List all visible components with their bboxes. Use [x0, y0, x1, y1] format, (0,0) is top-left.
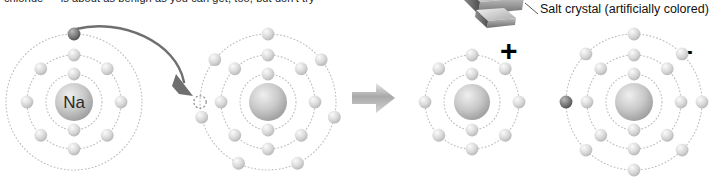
chloride-ion-electron [628, 28, 641, 41]
chlorine-atom-electron [291, 157, 304, 170]
sodium-ion-electron [466, 143, 479, 156]
chlorine-atom-electron [195, 111, 208, 124]
reaction-arrow-icon [352, 82, 396, 114]
chlorine-atom-electron [295, 62, 308, 75]
sodium-ion-electron [432, 62, 445, 75]
chlorine-atom-electron [262, 124, 275, 137]
chloride-ion-electron-highlighted [560, 96, 573, 109]
cropped-caption-strip: chloride — is about as benign as you can… [0, 0, 430, 9]
chlorine-atom-electron [295, 129, 308, 142]
sodium-atom-electron [68, 143, 81, 156]
chlorine-atom-electron [232, 157, 245, 170]
sodium-ion-electron [466, 49, 479, 62]
chloride-ion-diagram [548, 16, 711, 187]
chlorine-atom-electron [262, 28, 275, 41]
sodium-ion-electron [513, 96, 526, 109]
chlorine-atom-electron [228, 129, 241, 142]
sodium-atom-diagram: Na [0, 16, 160, 187]
chlorine-atom-svg [182, 16, 354, 187]
chloride-ion-electron [676, 48, 689, 61]
chlorine-atom-nucleus [249, 83, 287, 121]
sodium-atom-svg: Na [0, 16, 160, 187]
sodium-atom-electron [21, 96, 34, 109]
chloride-ion-electron [628, 68, 641, 81]
chloride-ion-svg [548, 16, 711, 187]
salt-crystal-label: Salt crystal (artificially colored) [540, 2, 709, 16]
chloride-ion-electron [581, 96, 594, 109]
sodium-atom-electron [115, 96, 128, 109]
chloride-ion-electron [628, 143, 641, 156]
chloride-ion-electron [696, 96, 709, 109]
chlorine-atom-electron [262, 49, 275, 62]
sodium-ion-electron [432, 129, 445, 142]
chloride-ion-electron [628, 124, 641, 137]
sodium-ion-electron [419, 96, 432, 109]
sodium-atom-electron [68, 49, 81, 62]
sodium-atom-electron-highlighted [68, 28, 81, 41]
chloride-ion-electron [594, 62, 607, 75]
sodium-ion-electron [499, 62, 512, 75]
sodium-ion-electron [499, 129, 512, 142]
sodium-ion-electron [466, 68, 479, 81]
chloride-ion-electron [661, 62, 674, 75]
chloride-ion-electron [594, 129, 607, 142]
chlorine-atom-electron [215, 96, 228, 109]
sodium-atom-electron [68, 68, 81, 81]
chloride-ion-electron [628, 164, 641, 177]
chlorine-atom-diagram [182, 16, 354, 187]
chlorine-atom-electron [208, 53, 221, 66]
crystal-leader-line [524, 2, 540, 16]
sodium-atom-nucleus-label: Na [63, 93, 85, 112]
chloride-ion-electron [580, 144, 593, 157]
sodium-ion-nucleus [454, 84, 490, 120]
chlorine-atom-electron [315, 53, 328, 66]
chlorine-atom-electron [262, 68, 275, 81]
chlorine-atom-electron [228, 62, 241, 75]
chloride-ion-electron [661, 129, 674, 142]
sodium-atom-electron [101, 129, 114, 142]
sodium-ion-svg [392, 22, 552, 182]
chloride-ion-electron [628, 49, 641, 62]
sodium-ion-electron [466, 124, 479, 137]
chloride-ion-nucleus [615, 83, 653, 121]
chloride-ion-electron [676, 144, 689, 157]
sodium-ion-diagram [392, 22, 552, 182]
sodium-atom-electron [34, 129, 47, 142]
sodium-atom-electron [34, 62, 47, 75]
chlorine-atom-electron [328, 111, 341, 124]
caption-text: chloride — is about as benign as you can… [4, 0, 315, 4]
chlorine-atom-electron [309, 96, 322, 109]
sodium-atom-electron [101, 62, 114, 75]
chloride-ion-electron [580, 48, 593, 61]
sodium-atom-electron [68, 124, 81, 137]
chloride-ion-electron [675, 96, 688, 109]
chlorine-atom-electron [262, 143, 275, 156]
